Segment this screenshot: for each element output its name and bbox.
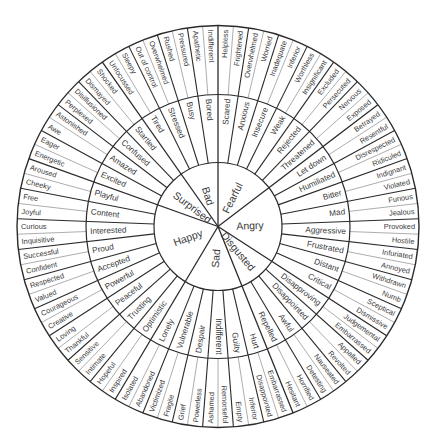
secondary-emotion-stressed: Stressed	[166, 106, 187, 140]
tertiary-emotion-empty: Empty	[234, 401, 245, 423]
tertiary-emotion-numb: Numb	[381, 289, 403, 305]
tertiary-emotion-furious: Furious	[388, 192, 414, 205]
tertiary-emotion-free: Free	[23, 192, 39, 203]
tertiary-emotion-inquisitive: Inquisitive	[21, 235, 54, 246]
secondary-emotion-excited: Excited	[99, 170, 128, 189]
tertiary-emotion-helpless: Helpless	[220, 29, 230, 58]
tertiary-emotion-aroused: Aroused	[29, 163, 58, 180]
wheel-dividers	[17, 26, 419, 428]
tertiary-emotion-ashamed: Ashamed	[206, 392, 216, 424]
secondary-emotion-guilty: Guilty	[230, 332, 242, 355]
tertiary-emotion-hostile: Hostile	[392, 235, 415, 246]
tertiary-emotion-jealous: Jealous	[389, 207, 415, 218]
secondary-emotion-lonely: Lonely	[157, 317, 176, 343]
tertiary-emotion-remorseful: Remorseful	[220, 385, 230, 423]
tertiary-emotion-curious: Curious	[21, 222, 47, 231]
core-emotion-angry: Angry	[236, 219, 265, 232]
secondary-emotion-hurt: Hurt	[248, 332, 261, 350]
tertiary-emotion-indifferent: Indifferent	[206, 29, 216, 62]
tertiary-emotion-worried: Worried	[259, 35, 275, 62]
secondary-emotion-busy: Busy	[184, 101, 197, 122]
secondary-emotion-proud: Proud	[91, 242, 115, 255]
secondary-emotion-mad: Mad	[329, 207, 346, 218]
secondary-emotion-frustrated: Frustrated	[306, 239, 345, 255]
core-emotion-fearful: Fearful	[220, 181, 245, 216]
tertiary-emotion-overwhelmed: Overwhelmed	[242, 32, 260, 78]
secondary-emotion-aggressive: Aggressive	[305, 225, 346, 236]
secondary-emotion-indifferent: Indifferent	[214, 318, 223, 355]
tertiary-emotion-rushed: Rushed	[161, 35, 176, 62]
secondary-emotion-interested: Interested	[90, 225, 127, 235]
secondary-emotion-vulnerable: Vulnerable	[175, 310, 195, 350]
secondary-emotion-content: Content	[90, 207, 120, 219]
secondary-emotion-scared: Scared	[221, 98, 232, 125]
secondary-emotion-bitter: Bitter	[322, 188, 343, 202]
emotion-wheel: FearfulAngryDisgustedSadHappySurprisedBa…	[0, 0, 434, 446]
tertiary-emotion-joyful: Joyful	[21, 207, 41, 217]
secondary-emotion-critical: Critical	[306, 272, 332, 292]
tertiary-emotion-inferior: Inferior	[247, 396, 260, 421]
secondary-emotion-playful: Playful	[93, 188, 119, 203]
core-emotion-disgusted: Disgusted	[219, 229, 258, 273]
tertiary-emotion-eager: Eager	[39, 135, 61, 152]
tertiary-emotion-provoked: Provoked	[384, 222, 415, 231]
secondary-emotion-insecure: Insecure	[250, 106, 270, 139]
secondary-emotion-bored: Bored	[204, 99, 215, 122]
tertiary-divider	[350, 232, 419, 235]
core-emotion-happy: Happy	[172, 226, 205, 248]
secondary-emotion-despair: Despair	[194, 324, 207, 354]
tertiary-emotion-powerless: Powerless	[191, 388, 204, 423]
tertiary-emotion-grief: Grief	[176, 402, 188, 420]
core-emotion-sad: Sad	[209, 248, 222, 268]
secondary-emotion-repelled: Repelled	[256, 310, 279, 343]
tertiary-emotion-apathetic: Apathetic	[191, 30, 204, 62]
